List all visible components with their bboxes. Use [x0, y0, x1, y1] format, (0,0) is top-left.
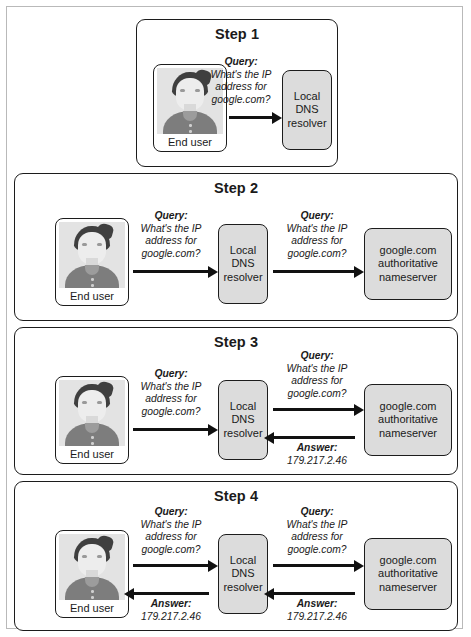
step-panel-2: Step 2 End user Query: What's the IP add… — [14, 173, 458, 321]
avatar-eye-right — [97, 401, 102, 404]
avatar-eye-right — [195, 89, 200, 92]
local-dns-resolver-node-step3: Local DNS resolver — [218, 380, 268, 460]
resolver-line-3: resolver — [223, 427, 262, 439]
resolver-line-1: Local — [230, 244, 256, 256]
resolver-line-3: resolver — [223, 581, 262, 593]
query-line-2: address for — [279, 235, 355, 248]
step-1-title: Step 1 — [137, 26, 337, 42]
nameserver-line-1: google.com — [380, 400, 437, 412]
query-message-resolver-step4: Query: What's the IP address for google.… — [279, 506, 355, 556]
end-user-card-step4: End user — [55, 530, 129, 618]
answer-value: 179.217.2.46 — [279, 611, 355, 624]
resolver-line-2: DNS — [231, 413, 254, 425]
query-line-3: google.com? — [203, 94, 279, 107]
end-user-card-step3: End user — [55, 376, 129, 464]
query-line-3: google.com? — [133, 406, 209, 419]
query-message-user-step4: Query: What's the IP address for google.… — [133, 506, 209, 556]
answer-title: Answer: — [133, 598, 209, 611]
resolver-line-1: Local — [230, 554, 256, 566]
resolver-line-2: DNS — [295, 103, 318, 115]
nameserver-line-3: nameserver — [379, 581, 437, 593]
resolver-line-3: resolver — [287, 117, 326, 129]
query-line-3: google.com? — [133, 248, 209, 261]
authoritative-nameserver-node-step4: google.com authoritative nameserver — [364, 538, 452, 610]
step-panel-3: Step 3 End user Query: What's the IP add… — [14, 327, 458, 475]
query-line-1: What's the IP — [279, 519, 355, 532]
query-line-2: address for — [203, 81, 279, 94]
answer-value: 179.217.2.46 — [133, 611, 209, 624]
query-line-2: address for — [133, 235, 209, 248]
end-user-label: End user — [56, 602, 128, 614]
avatar-button-2 — [91, 596, 94, 599]
step-panel-4: Step 4 End user Query: What's the IP add… — [14, 481, 458, 631]
query-message-user-step2: Query: What's the IP address for google.… — [133, 210, 209, 260]
answer-message-resolver-step4: Answer: 179.217.2.46 — [133, 598, 209, 623]
user-avatar-icon — [59, 534, 125, 600]
local-dns-resolver-node-step1: Local DNS resolver — [282, 70, 332, 150]
avatar-button-2 — [91, 284, 94, 287]
query-title: Query: — [133, 210, 209, 223]
query-title: Query: — [279, 350, 355, 363]
query-line-1: What's the IP — [203, 69, 279, 82]
query-message-resolver-step3: Query: What's the IP address for google.… — [279, 350, 355, 400]
end-user-card-step2: End user — [55, 218, 129, 306]
answer-value: 179.217.2.46 — [279, 455, 355, 468]
end-user-label: End user — [154, 136, 226, 148]
user-avatar-icon — [59, 380, 125, 446]
user-avatar-icon — [59, 222, 125, 288]
avatar-button-2 — [91, 442, 94, 445]
query-line-2: address for — [279, 531, 355, 544]
query-line-1: What's the IP — [133, 519, 209, 532]
arrow-user-to-resolver-step1 — [229, 116, 273, 119]
query-line-1: What's the IP — [279, 223, 355, 236]
query-line-1: What's the IP — [279, 363, 355, 376]
arrow-resolver-to-nameserver-step2 — [273, 270, 355, 273]
nameserver-line-2: authoritative — [378, 567, 438, 579]
query-line-3: google.com? — [279, 388, 355, 401]
step-3-title: Step 3 — [15, 334, 457, 350]
step-4-title: Step 4 — [15, 488, 457, 504]
query-message-user-step3: Query: What's the IP address for google.… — [133, 368, 209, 418]
nameserver-line-2: authoritative — [378, 413, 438, 425]
end-user-label: End user — [56, 290, 128, 302]
step-panel-1: Step 1 End user Query: What's the IP add… — [136, 19, 338, 167]
figure-frame: Step 1 End user Query: What's the IP add… — [6, 6, 463, 629]
answer-title: Answer: — [279, 442, 355, 455]
query-line-1: What's the IP — [133, 381, 209, 394]
query-title: Query: — [133, 368, 209, 381]
answer-message-nameserver-step4: Answer: 179.217.2.46 — [279, 598, 355, 623]
avatar-button-1 — [189, 124, 192, 127]
arrow-resolver-to-nameserver-step3 — [273, 408, 355, 411]
avatar-button-2 — [189, 130, 192, 133]
query-line-1: What's the IP — [133, 223, 209, 236]
end-user-label: End user — [56, 448, 128, 460]
query-line-3: google.com? — [279, 248, 355, 261]
query-title: Query: — [279, 506, 355, 519]
resolver-line-1: Local — [230, 400, 256, 412]
local-dns-resolver-node-step2: Local DNS resolver — [218, 224, 268, 304]
arrow-nameserver-to-resolver-step3 — [273, 436, 355, 439]
nameserver-line-3: nameserver — [379, 271, 437, 283]
avatar-eye-right — [97, 555, 102, 558]
query-line-2: address for — [133, 531, 209, 544]
arrow-resolver-to-user-step4 — [133, 592, 209, 595]
arrow-resolver-to-nameserver-step4 — [273, 564, 355, 567]
avatar-eye-left — [82, 401, 87, 404]
avatar-eye-left — [82, 555, 87, 558]
avatar-eye-left — [82, 243, 87, 246]
answer-message-nameserver-step3: Answer: 179.217.2.46 — [279, 442, 355, 467]
query-message-resolver-step2: Query: What's the IP address for google.… — [279, 210, 355, 260]
resolver-line-2: DNS — [231, 567, 254, 579]
query-message-step1: Query: What's the IP address for google.… — [203, 56, 279, 106]
resolver-line-3: resolver — [223, 271, 262, 283]
query-title: Query: — [279, 210, 355, 223]
query-title: Query: — [203, 56, 279, 69]
authoritative-nameserver-node-step3: google.com authoritative nameserver — [364, 384, 452, 456]
arrow-user-to-resolver-step2 — [133, 270, 209, 273]
query-line-3: google.com? — [279, 544, 355, 557]
answer-title: Answer: — [279, 598, 355, 611]
avatar-button-1 — [91, 278, 94, 281]
arrow-user-to-resolver-step4 — [133, 564, 209, 567]
nameserver-line-3: nameserver — [379, 427, 437, 439]
arrow-nameserver-to-resolver-step4 — [273, 592, 355, 595]
